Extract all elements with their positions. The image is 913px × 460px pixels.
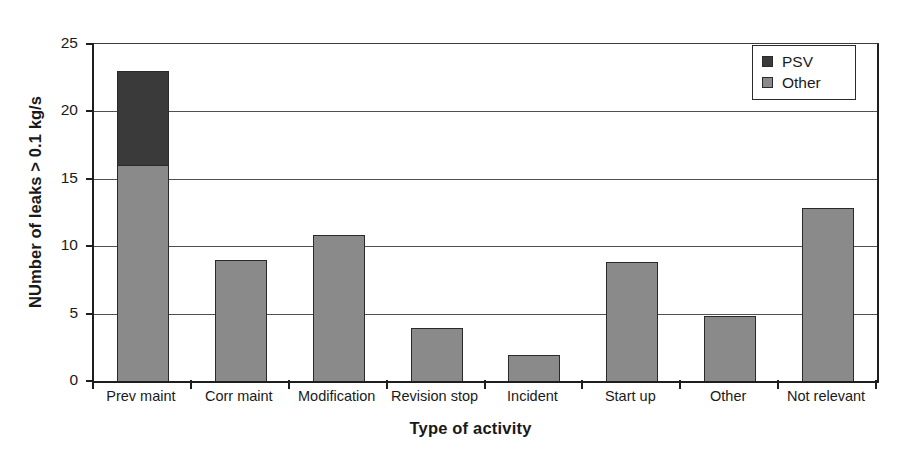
legend-item-psv[interactable]: PSV bbox=[753, 51, 855, 72]
gridline bbox=[94, 246, 877, 247]
x-tick-label: Not relevant bbox=[787, 388, 865, 404]
bar-group[interactable] bbox=[215, 260, 267, 381]
bar-segment-other[interactable] bbox=[117, 165, 169, 381]
bar-group[interactable] bbox=[606, 262, 658, 381]
legend-swatch-psv-icon bbox=[762, 56, 773, 67]
y-tick-mark bbox=[86, 313, 94, 315]
bar-group[interactable] bbox=[411, 328, 463, 381]
y-tick-label: 15 bbox=[44, 169, 78, 187]
y-tick-label: 0 bbox=[44, 371, 78, 389]
x-tick-label: Start up bbox=[605, 388, 656, 404]
bar-group[interactable] bbox=[704, 316, 756, 381]
x-tick-label: Incident bbox=[507, 388, 558, 404]
bar-segment-other[interactable] bbox=[606, 262, 658, 381]
x-axis-title: Type of activity bbox=[409, 419, 531, 438]
bar-segment-other[interactable] bbox=[313, 235, 365, 381]
bar-group[interactable] bbox=[313, 235, 365, 381]
x-tick-label: Prev maint bbox=[106, 388, 175, 404]
y-tick-mark bbox=[86, 178, 94, 180]
legend-label-other: Other bbox=[782, 75, 821, 91]
gridline bbox=[94, 314, 877, 315]
legend-swatch-other-icon bbox=[762, 77, 773, 88]
legend-item-other[interactable]: Other bbox=[753, 72, 855, 93]
y-tick-mark bbox=[86, 43, 94, 45]
x-tick-label: Modification bbox=[298, 388, 375, 404]
bar-segment-other[interactable] bbox=[215, 260, 267, 381]
bar-group[interactable] bbox=[117, 71, 169, 381]
y-tick-label: 5 bbox=[44, 304, 78, 322]
bar-segment-other[interactable] bbox=[508, 355, 560, 381]
x-tick-label: Other bbox=[710, 388, 746, 404]
x-tick-mark bbox=[581, 380, 583, 389]
x-tick-mark bbox=[190, 380, 192, 389]
x-tick-label: Corr maint bbox=[205, 388, 273, 404]
chart-legend: PSV Other bbox=[752, 45, 856, 100]
x-tick-mark bbox=[777, 380, 779, 389]
x-tick-mark bbox=[679, 380, 681, 389]
x-tick-mark bbox=[92, 380, 94, 389]
y-tick-mark bbox=[86, 110, 94, 112]
bar-segment-psv[interactable] bbox=[117, 71, 169, 165]
gridline bbox=[94, 111, 877, 112]
bar-segment-other[interactable] bbox=[802, 208, 854, 381]
bar-group[interactable] bbox=[508, 355, 560, 381]
x-tick-mark bbox=[288, 380, 290, 389]
y-tick-label: 10 bbox=[44, 236, 78, 254]
y-tick-label: 20 bbox=[44, 101, 78, 119]
gridline bbox=[94, 179, 877, 180]
x-tick-label: Revision stop bbox=[391, 388, 478, 404]
x-axis-title-wrap: Type of activity bbox=[0, 419, 913, 438]
y-tick-mark bbox=[86, 245, 94, 247]
bar-segment-other[interactable] bbox=[411, 328, 463, 381]
bar-segment-other[interactable] bbox=[704, 316, 756, 381]
bar-group[interactable] bbox=[802, 208, 854, 381]
x-tick-mark bbox=[875, 380, 877, 389]
y-tick-label: 25 bbox=[44, 34, 78, 52]
legend-label-psv: PSV bbox=[782, 54, 813, 70]
chart-figure: NUmber of leaks > 0.1 kg/s 0510152025 Pr… bbox=[0, 0, 913, 460]
x-tick-mark bbox=[386, 380, 388, 389]
x-tick-mark bbox=[484, 380, 486, 389]
